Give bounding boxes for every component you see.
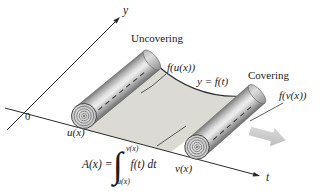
covering-label: Covering xyxy=(248,69,289,81)
origin-label: 0 xyxy=(25,111,30,122)
integral-lower-limit: u(x) xyxy=(117,177,130,186)
curve-equation-label: y = f(t) xyxy=(196,75,229,88)
figure-canvas: y t 0 Uncovering Covering f(u(x)) y = f(… xyxy=(0,0,324,191)
y-axis-label: y xyxy=(122,4,129,17)
t-axis-label: t xyxy=(266,171,270,183)
motion-arrow-icon xyxy=(248,122,289,150)
f-u-label: f(u(x)) xyxy=(167,61,195,74)
scroll-area-diagram: y t 0 Uncovering Covering f(u(x)) y = f(… xyxy=(0,0,324,191)
formula-lhs: A(x) = xyxy=(81,158,112,171)
uncovering-label: Uncovering xyxy=(131,32,183,44)
area-formula: A(x) = ∫ v(x) u(x) f(t) dt xyxy=(81,144,157,187)
formula-integrand: f(t) dt xyxy=(131,158,158,171)
integral-upper-limit: v(x) xyxy=(126,144,139,153)
f-v-label: f(v(x)) xyxy=(279,89,307,102)
u-x-label: u(x) xyxy=(67,126,85,139)
v-x-label: v(x) xyxy=(175,162,192,175)
t-axis-arrowhead xyxy=(253,172,260,176)
